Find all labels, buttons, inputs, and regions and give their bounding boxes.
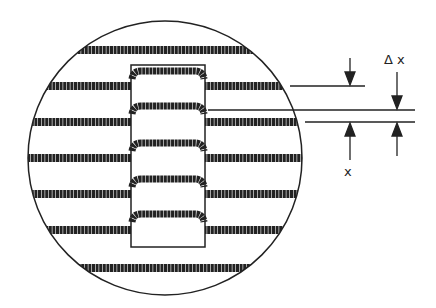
measurement-window (131, 65, 205, 247)
x-label: x (344, 164, 352, 179)
dimension-arrows (345, 58, 402, 160)
arrow-down-icon (392, 96, 402, 109)
arrow-up-icon (345, 123, 355, 136)
delta-x-label: Δ x (384, 52, 405, 67)
arrow-down-icon (345, 72, 355, 85)
arrow-up-icon (392, 123, 402, 136)
fringe-diagram (0, 0, 436, 308)
reference-lines (208, 86, 415, 122)
